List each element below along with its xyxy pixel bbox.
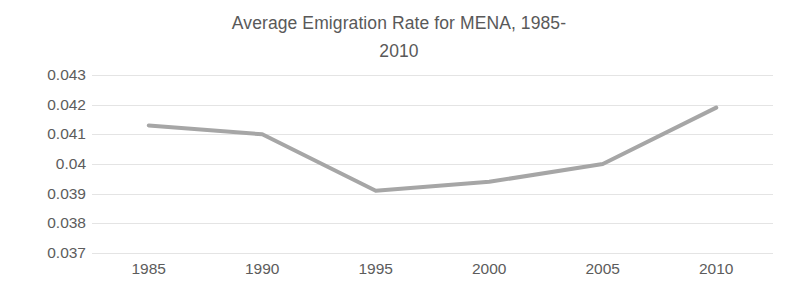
x-tick-label: 2010 [671,258,761,280]
y-tick-label: 0.038 [0,215,86,231]
x-tick-label: 2000 [444,258,534,280]
y-tick-label: 0.042 [0,97,86,113]
x-axis: 198519901995200020052010 [92,258,773,282]
x-tick-label: 1995 [331,258,421,280]
y-tick-label: 0.043 [0,67,86,83]
plot-area [92,75,773,253]
x-tick-label: 1985 [104,258,194,280]
chart-container: Average Emigration Rate for MENA, 1985- … [0,0,798,299]
y-tick-label: 0.04 [0,156,86,172]
gridline [92,253,773,254]
y-tick-label: 0.039 [0,186,86,202]
chart-title: Average Emigration Rate for MENA, 1985- … [0,9,798,65]
y-tick-label: 0.041 [0,126,86,142]
x-tick-label: 1990 [217,258,307,280]
y-tick-label: 0.037 [0,245,86,261]
series-polyline [149,108,717,191]
line-series [92,75,773,253]
y-axis: 0.0430.0420.0410.040.0390.0380.037 [0,75,86,253]
x-tick-label: 2005 [558,258,648,280]
